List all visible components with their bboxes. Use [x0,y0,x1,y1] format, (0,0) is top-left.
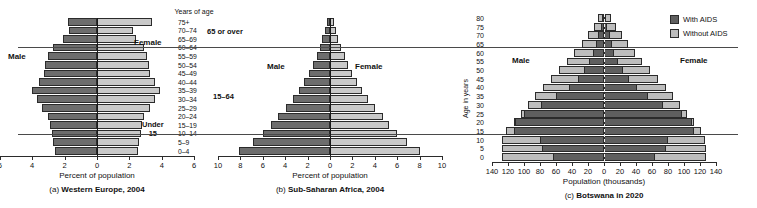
x-tick-5 [572,162,573,166]
bar-male-with-aids-55 [589,58,604,66]
bar-male-35–39 [299,87,330,95]
age-label-50–54: 50–54 [178,62,197,69]
bar-female-55–59 [330,52,345,60]
bar-female-20–24 [330,113,383,121]
bar-female-with-aids-65 [604,40,612,48]
y-tick-label-80: 80 [470,15,484,22]
age-label-65–69: 65–69 [178,36,197,43]
age-label-35–39: 35–39 [178,87,197,94]
y-tick-label-45: 45 [470,76,484,83]
age-label-5–9: 5–9 [178,139,189,146]
bar-female-with-aids-20 [604,118,692,126]
bar-male-50–54 [313,61,330,69]
bar-female-with-aids-10 [604,136,668,144]
bar-female-20–24 [97,113,144,121]
bar-male-with-aids-35 [556,92,604,100]
x-tick-label-7: 0 [602,167,606,176]
y-tick-label-50: 50 [470,67,484,74]
x-tick-0 [0,156,1,160]
bar-male-with-aids-15 [514,127,604,135]
x-tick-label-10: 10 [438,161,446,170]
bar-female-35–39 [330,87,362,95]
bar-female-0–4 [97,147,138,155]
bar-male-25–29 [286,104,330,112]
bar-female-75+ [97,18,152,26]
bar-male-0–4 [55,147,97,155]
x-tick-5 [330,156,331,160]
age-label-15–19: 15–19 [178,122,197,129]
bar-female-40–44 [97,78,155,86]
y-tick-label-5: 5 [470,145,484,152]
x-tick-3 [285,156,286,160]
female-label: Female [134,38,162,47]
x-tick-label-3: 0 [95,161,99,170]
x-tick-label-0: 10 [214,161,222,170]
female-label: Female [680,56,708,65]
x-tick-6 [194,156,195,160]
age-label-20–24: 20–24 [178,113,197,120]
x-tick-10 [442,156,443,160]
x-tick-9 [636,162,637,166]
bar-female-55–59 [97,52,147,60]
bar-male-65–69 [322,35,330,43]
caption-title: Western Europe, 2004 [61,185,144,194]
legend-label-without-aids: Without AIDS [683,29,728,38]
bar-male-with-aids-5 [542,145,604,153]
x-tick-label-6: 6 [192,161,196,170]
bar-female-with-aids-40 [604,84,637,92]
x-tick-label-14: 140 [710,167,723,176]
x-tick-2 [65,156,66,160]
x-tick-5 [162,156,163,160]
bar-male-40–44 [39,78,97,86]
age-label-70–74: 70–74 [178,27,197,34]
male-label: Male [8,52,26,61]
x-tick-label-4: 2 [306,161,310,170]
zero-axis-line [330,18,331,156]
x-tick-label-4: 60 [552,167,560,176]
x-tick-8 [620,162,621,166]
x-tick-label-1: 120 [502,167,515,176]
y-tick-label-40: 40 [470,84,484,91]
x-tick-2 [524,162,525,166]
bar-female-45–49 [330,70,352,78]
chart-caption: (c) Botswana in 2020 [565,191,644,200]
bar-female-with-aids-50 [604,66,623,74]
x-tick-label-2: 6 [261,161,265,170]
x-tick-label-1: 8 [238,161,242,170]
x-axis-title: Percent of population [292,171,368,180]
bar-male-70–74 [69,27,97,35]
bar-female-30–34 [97,95,155,103]
bar-male-25–29 [42,104,97,112]
x-tick-label-8: 6 [395,161,399,170]
bar-male-with-aids-10 [540,136,604,144]
bar-male-with-aids-45 [578,75,604,83]
bar-male-with-aids-20 [515,118,604,126]
bar-female-65–69 [97,35,136,43]
bar-female-5–9 [330,138,407,146]
x-tick-label-8: 20 [616,167,624,176]
bar-female-with-aids-0 [604,153,655,161]
x-tick-label-5: 0 [328,161,332,170]
bar-male-40–44 [304,78,330,86]
age-label-30–34: 30–34 [178,96,197,103]
y-tick-label-0: 0 [470,154,484,161]
x-tick-label-5: 4 [160,161,164,170]
x-tick-12 [684,162,685,166]
bar-female-with-aids-55 [604,58,618,66]
x-tick-9 [420,156,421,160]
legend-swatch-with-aids [670,15,679,24]
x-tick-2 [263,156,264,160]
age-label-0–4: 0–4 [178,148,189,155]
bar-male-5–9 [53,138,97,146]
x-tick-13 [700,162,701,166]
bar-male-20–24 [278,113,330,121]
x-tick-label-12: 100 [678,167,691,176]
age-label-40–44: 40–44 [178,79,197,86]
x-tick-label-3: 80 [536,167,544,176]
bar-male-with-aids-65 [596,40,604,48]
bar-female-with-aids-30 [604,101,663,109]
bar-male-with-aids-30 [541,101,604,109]
population-pyramids-figure: 0–45–910–1415–1920–2425–2930–3435–3940–4… [0,0,757,208]
x-tick-label-3: 4 [283,161,287,170]
x-tick-0 [492,162,493,166]
